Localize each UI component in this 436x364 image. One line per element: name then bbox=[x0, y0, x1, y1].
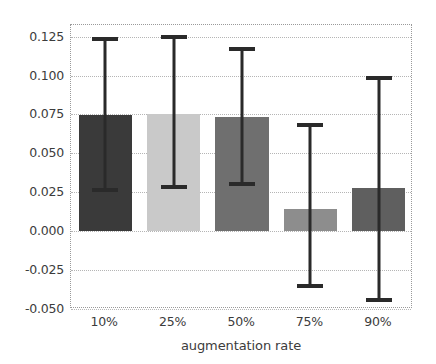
error-bar-line bbox=[309, 125, 312, 286]
x-axis-label: augmentation rate bbox=[70, 338, 412, 353]
y-tick-label: 0.000 bbox=[4, 223, 64, 238]
plot-area bbox=[70, 24, 412, 308]
y-tick-label: 0.050 bbox=[4, 145, 64, 160]
bar-chart-figure: 0.125 0.100 0.075 0.050 0.025 0.000 -0.0… bbox=[0, 0, 436, 364]
x-tick-label: 25% bbox=[143, 314, 203, 329]
x-tick-label: 10% bbox=[74, 314, 134, 329]
x-tick-label: 90% bbox=[348, 314, 408, 329]
x-tick-label: 50% bbox=[211, 314, 271, 329]
x-tick-label: 75% bbox=[279, 314, 339, 329]
gridline bbox=[71, 231, 411, 232]
error-bar-cap-upper bbox=[229, 47, 255, 51]
gridline bbox=[71, 309, 411, 310]
error-bar-cap-upper bbox=[366, 76, 392, 80]
error-bar-line bbox=[377, 78, 380, 300]
error-bar-cap-lower bbox=[229, 182, 255, 186]
error-bar-cap-upper bbox=[161, 35, 187, 39]
error-bar-cap-upper bbox=[92, 37, 118, 41]
error-bar-cap-lower bbox=[161, 185, 187, 189]
y-tick-label: 0.075 bbox=[4, 106, 64, 121]
gridline bbox=[71, 270, 411, 271]
error-bar-cap-lower bbox=[92, 188, 118, 192]
error-bar-line bbox=[104, 39, 107, 190]
error-bar-line bbox=[172, 37, 175, 188]
error-bar-cap-lower bbox=[366, 298, 392, 302]
gridline bbox=[71, 37, 411, 38]
y-tick-label: 0.025 bbox=[4, 184, 64, 199]
error-bar-cap-upper bbox=[297, 123, 323, 127]
y-tick-label: 0.125 bbox=[4, 28, 64, 43]
y-tick-label: -0.050 bbox=[4, 301, 64, 316]
y-tick-label: -0.025 bbox=[4, 262, 64, 277]
error-bar-cap-lower bbox=[297, 284, 323, 288]
error-bar-line bbox=[241, 49, 244, 183]
y-tick-label: 0.100 bbox=[4, 67, 64, 82]
